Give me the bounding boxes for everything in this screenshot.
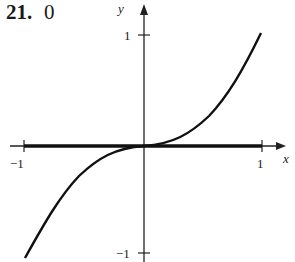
y-tick-1: 1 (124, 28, 131, 43)
y-axis (138, 4, 150, 262)
y-tick-neg1: −1 (116, 246, 130, 261)
y-axis-label: y (116, 1, 124, 16)
cubic-graph: y 1 −1 x −1 1 (0, 0, 295, 262)
x-tick-1: 1 (257, 156, 264, 171)
x-tick-neg1: −1 (10, 156, 24, 171)
x-axis-label: x (282, 151, 289, 166)
y-axis-arrow-icon (140, 4, 148, 15)
x-axis-arrow-icon (276, 142, 286, 150)
